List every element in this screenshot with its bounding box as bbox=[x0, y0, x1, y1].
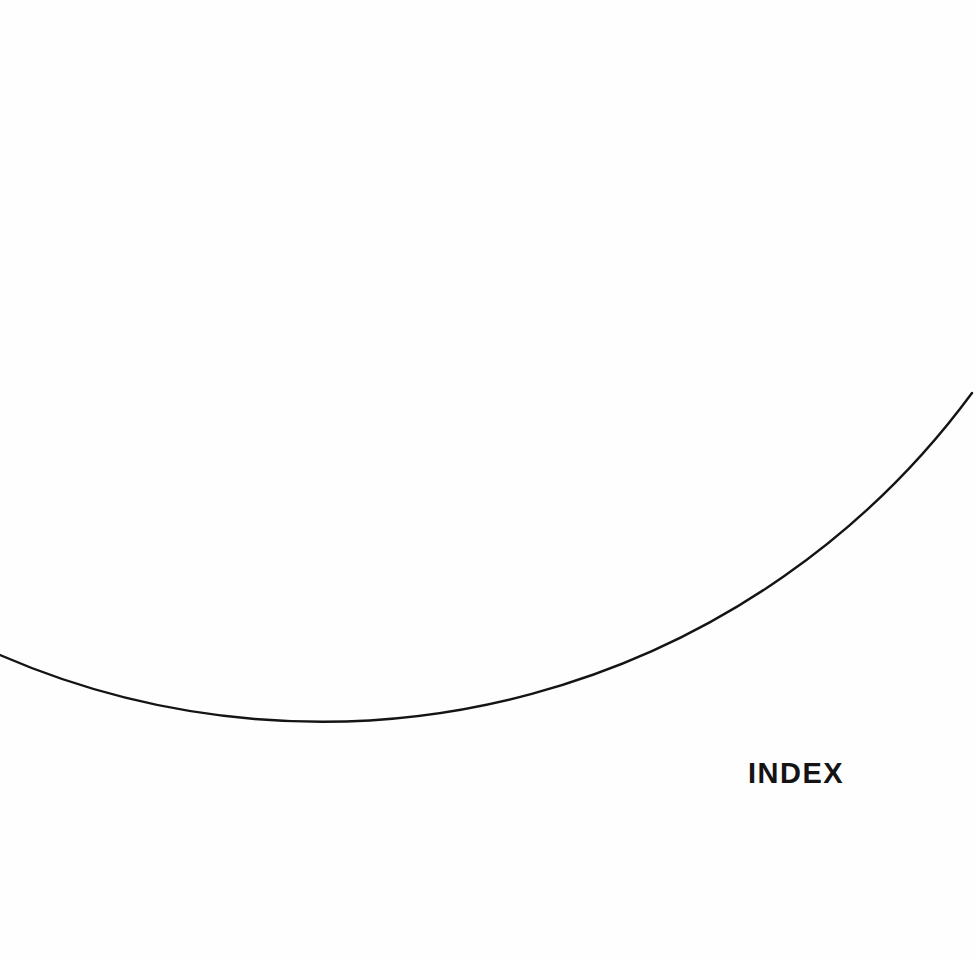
document-page: INDEX bbox=[0, 0, 976, 960]
index-heading: INDEX bbox=[748, 757, 844, 789]
decorative-arc bbox=[0, 0, 976, 960]
arc-line bbox=[0, 393, 972, 722]
